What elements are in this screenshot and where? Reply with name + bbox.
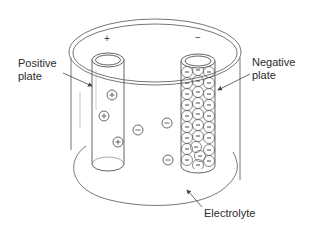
negative-terminal-symbol: − [195,33,201,43]
positive-plate-label-line1: Positive [18,57,57,70]
container-inner-rim [73,24,237,82]
positive-plate-arrow [63,73,92,86]
negative-plate-label-line2: plate [252,69,295,82]
negative-plate-label-line1: Negative [252,56,295,69]
electrolyte-label: Electrolyte [204,207,255,220]
negative-plate-arrow [218,74,250,90]
positive-plate-label: Positive plate [18,57,57,83]
positive-plate [92,53,124,171]
positive-ions [99,90,123,147]
positive-terminal-symbol: + [104,34,110,44]
battery-cell-diagram: + − Positive plate Negative plate Electr… [0,0,322,236]
container-bottom-arc [74,146,238,205]
negative-plate [181,54,215,173]
positive-plate-label-line2: plate [18,70,57,83]
negative-ions [133,118,173,165]
negative-plate-label: Negative plate [252,56,295,82]
electrolyte-arrow [187,190,202,207]
leader-arrows [63,73,250,207]
diagram-canvas [0,0,322,236]
